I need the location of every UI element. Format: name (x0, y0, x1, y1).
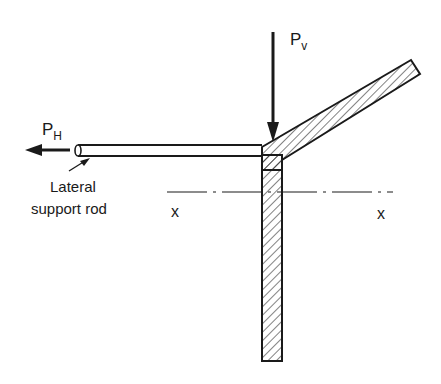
horizontal-load-label: PH (42, 120, 62, 143)
axis-label-left: x (171, 203, 179, 220)
vertical-force-arrow (267, 32, 279, 142)
rod-leader-arrow (69, 158, 90, 171)
rod-label-line2: support rod (31, 200, 107, 217)
rod-label-line1: Lateral (50, 178, 96, 195)
diagram-canvas: Pv PH Lateral support rod x x (0, 0, 441, 384)
inclined-arm (262, 60, 420, 170)
axis-label-right: x (377, 205, 385, 222)
vertical-load-label: Pv (290, 30, 307, 53)
horizontal-force-arrow (25, 144, 70, 156)
vertical-column (262, 155, 282, 361)
lateral-support-rod (75, 145, 262, 156)
